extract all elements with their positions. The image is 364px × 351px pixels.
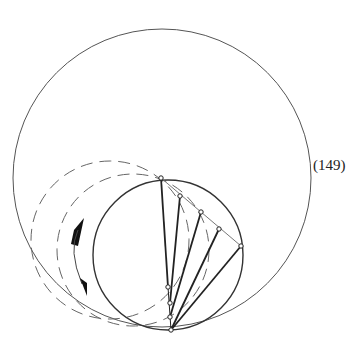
chord-lines — [161, 178, 241, 330]
equation-number: (149) — [313, 157, 346, 174]
diagram: (149) — [0, 0, 364, 351]
dashed-circle-inner — [57, 174, 209, 326]
geometry-figure — [0, 0, 364, 351]
points — [159, 176, 243, 332]
small-circle — [93, 180, 243, 330]
